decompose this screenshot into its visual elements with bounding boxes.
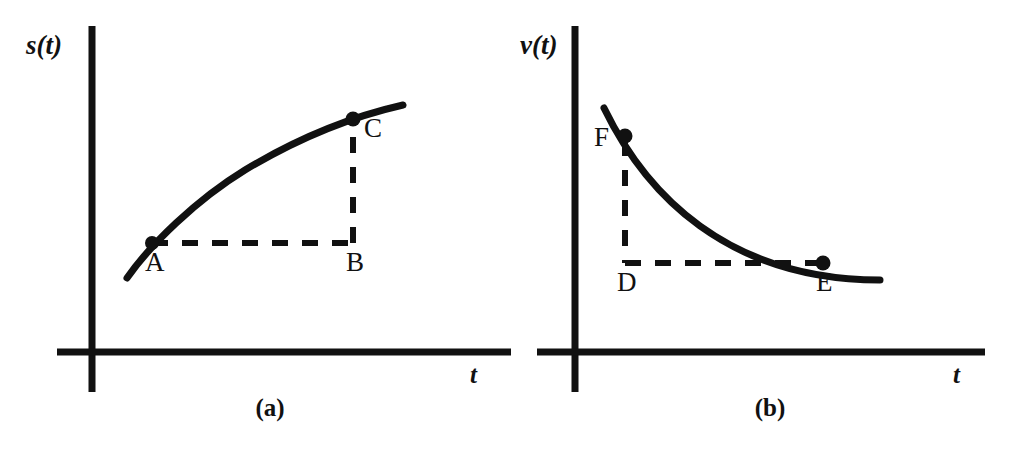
x-axis-label-a: t [470, 362, 477, 387]
point-label-d: D [617, 269, 637, 296]
y-axis-label-a: s(t) [26, 32, 62, 59]
caption-b: (b) [734, 395, 806, 420]
panel-a-plot [0, 0, 511, 456]
y-axis-label-b: v(t) [520, 32, 557, 59]
point-c-marker [346, 112, 361, 127]
curve-v-of-t [604, 108, 880, 280]
point-label-a: A [145, 249, 165, 276]
point-label-c: C [364, 115, 382, 142]
panel-a: s(t) t A B C (a) [0, 0, 511, 456]
panel-b-plot [510, 0, 1021, 456]
caption-a: (a) [234, 395, 306, 420]
figure-container: s(t) t A B C (a) v(t) t [0, 0, 1021, 456]
point-label-e: E [816, 269, 833, 296]
point-label-f: F [594, 124, 609, 151]
x-axis-label-b: t [953, 362, 960, 387]
point-f-marker [618, 129, 633, 144]
panel-b: v(t) t F D E (b) [510, 0, 1021, 456]
point-label-b: B [346, 249, 364, 276]
